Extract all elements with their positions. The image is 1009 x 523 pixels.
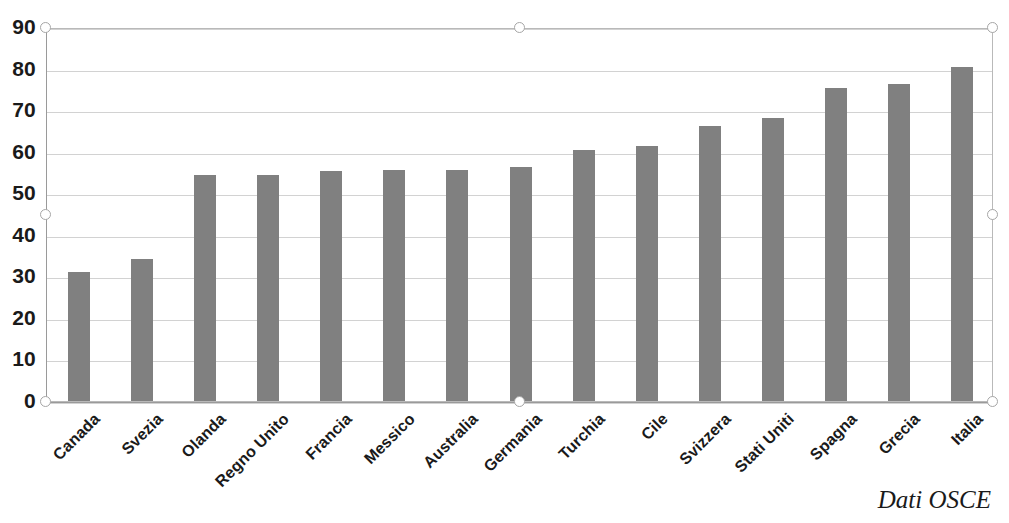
x-axis-tick-label: Cile [638, 410, 672, 444]
bar[interactable] [636, 146, 658, 401]
x-axis-tick-label: Olanda [178, 410, 230, 462]
bar-chart-object[interactable]: 0102030405060708090 CanadaSveziaOlandaRe… [0, 0, 1009, 523]
x-axis-tick-label: Australia [420, 410, 482, 472]
y-axis-tick-label: 80 [12, 57, 36, 81]
bar[interactable] [888, 84, 910, 401]
handle-middle-left[interactable] [40, 209, 51, 220]
y-axis-tick-label: 30 [12, 264, 36, 288]
handle-middle-right[interactable] [987, 209, 998, 220]
y-axis-tick-label: 10 [12, 347, 36, 371]
source-note: Dati OSCE [878, 486, 991, 514]
y-axis-tick-label: 0 [24, 389, 36, 413]
x-axis-tick-label: Grecia [876, 410, 924, 458]
x-axis-tick-label: Svizzera [676, 410, 735, 469]
x-axis-tick-label: Messico [361, 410, 419, 468]
x-axis-tick-label: Spagna [807, 410, 861, 464]
bar[interactable] [573, 150, 595, 401]
handle-top-right[interactable] [987, 22, 998, 33]
bar[interactable] [257, 175, 279, 401]
x-axis-tick-label: Turchia [555, 410, 608, 463]
bar[interactable] [510, 167, 532, 401]
x-axis-tick-label: Italia [948, 410, 987, 449]
bar[interactable] [383, 170, 405, 401]
handle-bottom-center[interactable] [514, 396, 525, 407]
bar-series[interactable] [47, 29, 992, 401]
bar[interactable] [762, 118, 784, 401]
y-axis-tick-label: 20 [12, 306, 36, 330]
x-axis-tick-label: Francia [302, 410, 355, 463]
bar[interactable] [194, 175, 216, 401]
y-axis-tick-label: 60 [12, 140, 36, 164]
y-axis-tick-label: 40 [12, 223, 36, 247]
bar[interactable] [68, 272, 90, 401]
x-axis-tick-label: Canada [49, 410, 103, 464]
bar[interactable] [825, 88, 847, 401]
y-axis-tick-label: 90 [12, 15, 36, 39]
y-axis-tick-label: 50 [12, 181, 36, 205]
handle-bottom-left[interactable] [40, 396, 51, 407]
x-axis-tick-label: Stati Uniti [731, 410, 797, 476]
bar[interactable] [320, 171, 342, 401]
handle-top-center[interactable] [514, 22, 525, 33]
bar[interactable] [131, 259, 153, 401]
handle-bottom-right[interactable] [987, 396, 998, 407]
bar[interactable] [951, 67, 973, 401]
handle-top-left[interactable] [40, 22, 51, 33]
plot-area[interactable] [46, 28, 993, 402]
x-axis-tick-label: Svezia [118, 410, 166, 458]
bar[interactable] [446, 170, 468, 401]
x-axis-tick-label: Germania [480, 410, 545, 475]
y-axis-tick-label: 70 [12, 98, 36, 122]
bar[interactable] [699, 126, 721, 402]
